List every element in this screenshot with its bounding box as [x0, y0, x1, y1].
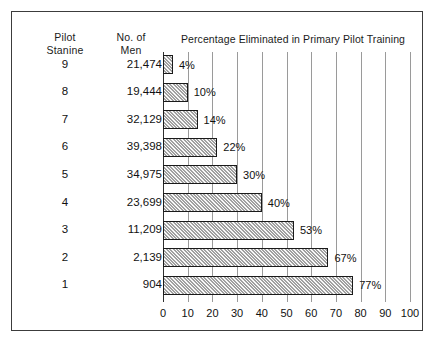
cell-stanine: 4 — [34, 196, 96, 208]
bar-stanine-4 — [163, 193, 262, 212]
bar-row: 22% — [163, 138, 410, 157]
plot-area: 4%10%14%22%30%40%53%67%77% — [163, 52, 410, 302]
bar-row: 10% — [163, 83, 410, 102]
bar-row: 53% — [163, 221, 410, 240]
bar-value-label: 4% — [179, 59, 195, 71]
cell-stanine: 2 — [34, 251, 96, 263]
bar-value-label: 53% — [300, 224, 322, 236]
cell-no-of-men: 23,699 — [92, 196, 162, 208]
bar-row: 30% — [163, 165, 410, 184]
cell-stanine: 6 — [34, 140, 96, 152]
x-tick-label-100: 100 — [393, 307, 427, 319]
bar-stanine-7 — [163, 110, 198, 129]
bar-stanine-3 — [163, 221, 294, 240]
cell-no-of-men: 39,398 — [92, 140, 162, 152]
bar-stanine-2 — [163, 248, 328, 267]
bar-value-label: 77% — [359, 279, 381, 291]
cell-no-of-men: 19,444 — [92, 85, 162, 97]
bar-value-label: 67% — [334, 252, 356, 264]
bar-row: 40% — [163, 193, 410, 212]
bar-stanine-8 — [163, 83, 188, 102]
bar-row: 67% — [163, 248, 410, 267]
cell-stanine: 5 — [34, 168, 96, 180]
cell-stanine: 7 — [34, 113, 96, 125]
bar-stanine-9 — [163, 55, 173, 74]
cell-stanine: 8 — [34, 85, 96, 97]
cell-no-of-men: 34,975 — [92, 168, 162, 180]
bar-value-label: 10% — [194, 86, 216, 98]
chart-page: Pilot Stanine No. of Men Percentage Elim… — [0, 0, 433, 342]
cell-no-of-men: 21,474 — [92, 58, 162, 70]
column-header-no-of-men: No. of Men — [100, 31, 162, 56]
gridline-100 — [410, 52, 411, 302]
bar-row: 77% — [163, 276, 410, 295]
cell-stanine: 9 — [34, 58, 96, 70]
cell-no-of-men: 2,139 — [92, 251, 162, 263]
cell-no-of-men: 32,129 — [92, 113, 162, 125]
cell-no-of-men: 11,209 — [92, 223, 162, 235]
cell-stanine: 1 — [34, 278, 96, 290]
bar-value-label: 14% — [204, 114, 226, 126]
bar-stanine-6 — [163, 138, 217, 157]
bar-row: 14% — [163, 110, 410, 129]
bar-stanine-5 — [163, 165, 237, 184]
bar-value-label: 30% — [243, 169, 265, 181]
bar-row: 4% — [163, 55, 410, 74]
cell-stanine: 3 — [34, 223, 96, 235]
chart-title: Percentage Eliminated in Primary Pilot T… — [168, 33, 418, 45]
column-header-pilot-stanine: Pilot Stanine — [34, 31, 96, 56]
bar-stanine-1 — [163, 276, 353, 295]
bar-value-label: 40% — [268, 197, 290, 209]
bar-value-label: 22% — [223, 141, 245, 153]
cell-no-of-men: 904 — [92, 278, 162, 290]
